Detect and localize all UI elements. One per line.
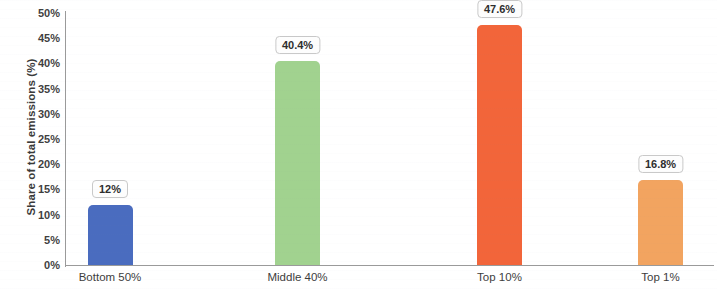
y-axis-tick-20: 20% [20, 158, 60, 170]
y-axis-tick-45: 45% [20, 32, 60, 44]
x-axis-tick-label: Top 1% [581, 271, 717, 283]
bar-group: 12% [88, 13, 133, 265]
bar-value-label: 12% [92, 180, 128, 198]
bar[interactable] [477, 25, 522, 265]
bar[interactable] [88, 205, 133, 265]
y-axis-tick-10: 10% [20, 209, 60, 221]
x-axis-line [65, 265, 714, 266]
y-axis-tick-35: 35% [20, 83, 60, 95]
y-axis-tick-30: 30% [20, 108, 60, 120]
y-axis-tick-50: 50% [20, 7, 60, 19]
y-axis-tick-0: 0% [20, 259, 60, 271]
bar[interactable] [275, 61, 320, 265]
bar-group: 40.4% [275, 13, 320, 265]
plot-area: 12%40.4%47.6%16.8% [66, 13, 713, 265]
bar-group: 16.8% [638, 13, 683, 265]
x-axis-tick-label: Top 10% [420, 271, 580, 283]
y-axis-tick-5: 5% [20, 234, 60, 246]
bar-group: 47.6% [477, 13, 522, 265]
bar-value-label: 40.4% [275, 36, 320, 54]
x-axis-tick-label: Middle 40% [218, 271, 378, 283]
bar[interactable] [638, 180, 683, 265]
y-axis-tick-15: 15% [20, 183, 60, 195]
x-axis-tick-label: Bottom 50% [30, 271, 190, 283]
y-axis-tick-40: 40% [20, 57, 60, 69]
bar-chart: Share of total emissions (%) 50%45%40%35… [0, 0, 717, 289]
bar-value-label: 16.8% [638, 155, 683, 173]
y-axis-tick-25: 25% [20, 133, 60, 145]
bar-value-label: 47.6% [477, 0, 522, 18]
